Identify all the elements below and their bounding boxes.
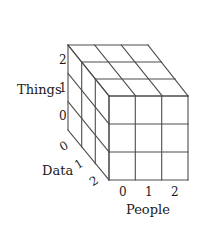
people-axis-title: People xyxy=(126,203,170,216)
people-tick-1: 1 xyxy=(145,186,153,198)
people-tick-2: 2 xyxy=(171,186,179,198)
people-tick-0: 0 xyxy=(119,186,127,198)
things-tick-2: 2 xyxy=(59,54,67,66)
things-tick-1: 1 xyxy=(59,82,67,94)
data-axis-title: Data xyxy=(42,164,73,177)
things-axis-title: Things xyxy=(17,83,62,96)
things-tick-0: 0 xyxy=(59,110,67,122)
cube-diagram-figure: Things 2 1 0 Data 0 1 2 0 1 2 People xyxy=(0,0,209,231)
